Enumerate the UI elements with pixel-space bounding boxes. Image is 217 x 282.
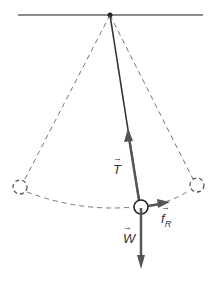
pendulum-diagram: T W fR — [0, 0, 217, 282]
left-extreme-string — [24, 15, 110, 181]
weight-arrowhead — [137, 255, 145, 269]
weight-symbol: W — [123, 232, 135, 245]
right-extreme-bob — [190, 178, 204, 192]
tension-symbol: T — [113, 163, 121, 176]
tension-arrowhead — [124, 128, 133, 142]
friction-subscript: R — [165, 219, 172, 229]
tension-arrow-shaft — [129, 138, 139, 200]
tension-label: T — [113, 163, 121, 176]
swing-arc — [27, 192, 134, 208]
diagram-graphics — [0, 0, 217, 282]
friction-symbol: f — [161, 212, 165, 225]
weight-label: W — [123, 232, 135, 245]
left-extreme-bob — [13, 180, 27, 194]
friction-label: fR — [161, 212, 171, 229]
